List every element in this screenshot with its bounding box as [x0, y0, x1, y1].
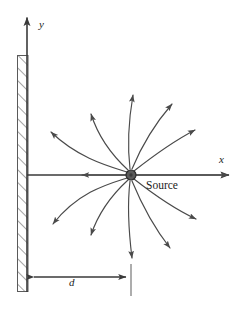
field-line-down-right-mid	[134, 179, 196, 219]
field-line-up-right-mid	[134, 130, 195, 171]
physics-field-line-diagram: y x Source d	[0, 0, 248, 312]
field-line-down-left-mid	[91, 180, 128, 235]
field-line-down-right-steep	[132, 181, 170, 248]
source-dot-center	[129, 173, 132, 176]
source-point	[126, 170, 136, 180]
field-line-up-right-steep	[132, 104, 172, 169]
axes	[27, 18, 229, 293]
field-lines	[51, 95, 228, 258]
field-line-down-left-shallow	[53, 178, 127, 224]
diagram-canvas	[0, 0, 248, 312]
field-line-down-left-steep	[129, 181, 132, 258]
field-line-up-left-steep	[129, 95, 133, 169]
dimension-d	[34, 264, 131, 296]
field-line-up-left-shallow	[51, 132, 127, 172]
